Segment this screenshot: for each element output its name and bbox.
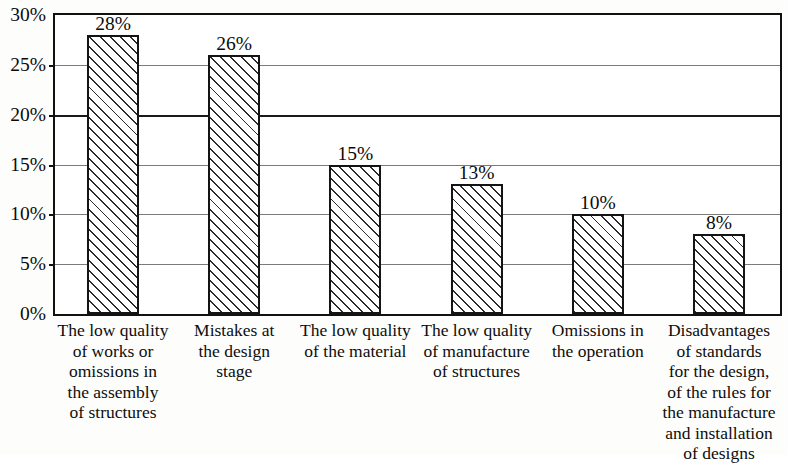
bar <box>451 184 503 314</box>
bar <box>87 35 139 314</box>
category-label: Mistakes at the design stage <box>169 320 299 382</box>
category-label: The low quality of works or omissions in… <box>48 320 178 423</box>
y-axis-tick-label: 5% <box>0 254 46 274</box>
bar <box>208 55 260 314</box>
bar-value-label: 28% <box>63 14 163 34</box>
category-label: Disadvantages of standards for the desig… <box>654 320 784 464</box>
bar <box>329 165 381 315</box>
y-axis-tick-label: 20% <box>0 105 46 125</box>
category-label: Omissions in the operation <box>533 320 663 361</box>
y-axis-tick-label: 25% <box>0 55 46 75</box>
y-axis-tick-label: 10% <box>0 204 46 224</box>
plot-area: 28%26%15%13%10%8% <box>53 13 782 316</box>
bars-layer: 28%26%15%13%10%8% <box>55 15 780 314</box>
y-axis-tick-label: 0% <box>0 304 46 324</box>
bar <box>693 234 745 314</box>
y-axis-tick-label: 30% <box>0 5 46 25</box>
bar-value-label: 13% <box>427 163 527 183</box>
category-label: The low quality of manufacture of struct… <box>412 320 542 382</box>
bar-value-label: 8% <box>669 213 769 233</box>
bar-value-label: 26% <box>184 34 284 54</box>
y-axis-tick-label: 15% <box>0 155 46 175</box>
category-axis-labels: The low quality of works or omissions in… <box>53 320 782 455</box>
bar-value-label: 15% <box>305 144 405 164</box>
bar-value-label: 10% <box>548 193 648 213</box>
bar <box>572 214 624 314</box>
category-label: The low quality of the material <box>290 320 420 361</box>
